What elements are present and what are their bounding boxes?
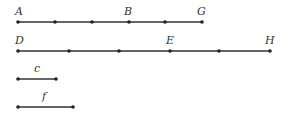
- point-dh-1: [67, 49, 71, 53]
- segment-c: c: [16, 62, 58, 81]
- point-g: [200, 20, 204, 24]
- point-c-start: [16, 77, 20, 81]
- label-d: D: [14, 34, 24, 47]
- point-e: [168, 49, 172, 53]
- label-a: A: [14, 5, 23, 18]
- segment-f: f: [16, 90, 75, 109]
- point-b: [127, 20, 131, 24]
- segment-ag: A B G: [14, 5, 206, 24]
- point-d: [16, 49, 20, 53]
- point-a: [16, 20, 20, 24]
- point-dh-2: [117, 49, 121, 53]
- point-c-end: [54, 77, 58, 81]
- point-dh-4: [217, 49, 221, 53]
- label-h: H: [264, 34, 275, 47]
- label-g: G: [197, 5, 206, 18]
- label-b: B: [123, 5, 132, 18]
- point-f-end: [71, 105, 75, 109]
- point-ag-2: [90, 20, 94, 24]
- point-h: [268, 49, 272, 53]
- segment-dh: D E H: [14, 34, 275, 53]
- point-ag-4: [163, 20, 167, 24]
- label-c: c: [34, 62, 40, 75]
- label-f: f: [41, 90, 48, 103]
- point-ag-1: [53, 20, 57, 24]
- label-e: E: [165, 34, 174, 47]
- geometry-diagram: A B G D E H c f: [0, 0, 291, 118]
- point-f-start: [16, 105, 20, 109]
